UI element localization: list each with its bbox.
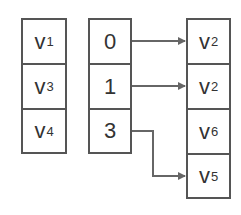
- arrow-3-to-v5: [132, 131, 185, 176]
- edge-arrows: [0, 0, 241, 215]
